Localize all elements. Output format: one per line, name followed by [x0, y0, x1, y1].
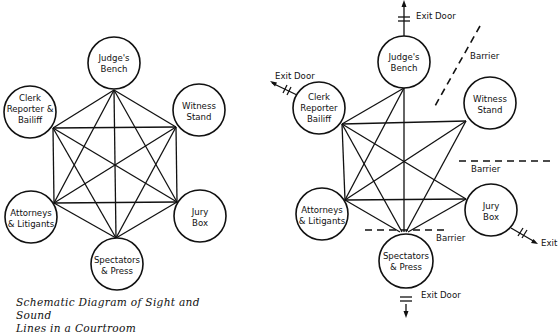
- caption-line-1: Schematic Diagram of Sight and Sound: [16, 296, 226, 322]
- svg-text:Exit Door: Exit Door: [275, 71, 315, 81]
- node-clerk-reporter-bailiff: Clerk Reporter & Bailiff: [4, 86, 56, 138]
- node-attorneys-litigants: Attorneys & Litigants: [5, 191, 57, 243]
- node-spectators-press: Spectators & Press: [91, 238, 143, 290]
- svg-text:Bailiff: Bailiff: [307, 114, 332, 124]
- node-attorneys-litigants-right: Attorneys & Litigants: [296, 188, 348, 240]
- left-diagram: Judge's Bench Clerk Reporter & Bailiff W…: [4, 37, 226, 290]
- exit-door-judge: Exit Door: [398, 0, 456, 36]
- svg-text:Bailiff: Bailiff: [18, 115, 43, 125]
- node-judges-bench: Judge's Bench: [88, 37, 140, 89]
- svg-text:Bench: Bench: [101, 64, 128, 74]
- svg-text:Barrier: Barrier: [436, 233, 466, 243]
- svg-text:Attorneys: Attorneys: [10, 208, 52, 218]
- node-spectators-press-right: Spectators & Press: [379, 234, 433, 288]
- node-witness-stand: Witness Stand: [173, 84, 225, 136]
- figure-caption: Schematic Diagram of Sight and Sound Lin…: [16, 296, 226, 335]
- node-witness-stand-right: Witness Stand: [464, 77, 516, 129]
- svg-text:Jury: Jury: [482, 201, 500, 211]
- svg-text:& Litigants: & Litigants: [299, 216, 346, 226]
- svg-text:Attorneys: Attorneys: [301, 205, 343, 215]
- svg-text:Stand: Stand: [478, 105, 503, 115]
- svg-text:Barrier: Barrier: [471, 164, 501, 174]
- svg-text:Reporter: Reporter: [300, 103, 338, 113]
- node-jury-box: Jury Box: [174, 190, 226, 242]
- svg-text:& Press: & Press: [390, 262, 423, 272]
- svg-text:Stand: Stand: [187, 112, 212, 122]
- svg-text:Barrier: Barrier: [470, 51, 500, 61]
- svg-text:Judge's: Judge's: [97, 53, 130, 63]
- svg-text:Jury: Jury: [191, 207, 209, 217]
- node-jury-box-right: Jury Box: [465, 184, 517, 236]
- node-judges-bench-right: Judge's Bench: [378, 36, 430, 88]
- exit-door-spectators: Exit Door: [400, 290, 461, 318]
- caption-line-2: Lines in a Courtroom: [16, 322, 226, 335]
- svg-text:Exit Door: Exit Door: [416, 11, 456, 21]
- svg-text:Exit: Exit: [541, 238, 558, 248]
- sight-lines-left: [53, 90, 177, 238]
- svg-text:& Litigants: & Litigants: [8, 219, 55, 229]
- exit-door-jury: Exit: [511, 228, 558, 248]
- svg-text:Judge's: Judge's: [387, 52, 420, 62]
- svg-text:Witness: Witness: [182, 101, 216, 111]
- svg-text:Clerk: Clerk: [308, 92, 330, 102]
- barrier-witness-jury: Barrier: [459, 161, 550, 174]
- svg-text:& Press: & Press: [101, 266, 134, 276]
- svg-text:Exit Door: Exit Door: [421, 290, 461, 300]
- sight-lines-right: [342, 88, 466, 232]
- svg-text:Witness: Witness: [473, 94, 507, 104]
- right-diagram: Barrier Barrier Barrier Exit Door Exit D…: [270, 0, 558, 318]
- svg-text:Reporter &: Reporter &: [7, 104, 54, 114]
- svg-text:Bench: Bench: [391, 63, 418, 73]
- svg-text:Spectators: Spectators: [94, 255, 141, 265]
- svg-text:Spectators: Spectators: [383, 251, 430, 261]
- svg-text:Clerk: Clerk: [19, 93, 41, 103]
- svg-text:Box: Box: [192, 218, 208, 228]
- node-clerk-reporter-bailiff-right: Clerk Reporter Bailiff: [293, 82, 345, 134]
- svg-text:Box: Box: [483, 212, 499, 222]
